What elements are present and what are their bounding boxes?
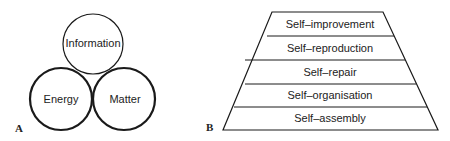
matter-label: Matter: [109, 93, 141, 105]
panel-a-label: A: [15, 122, 23, 134]
information-label: Information: [65, 37, 120, 49]
panel-b-label: B: [206, 121, 214, 133]
layer-label: Self–improvement: [286, 18, 375, 30]
panel-a: Information Energy Matter A: [15, 14, 155, 134]
layer-label: Self–repair: [303, 66, 357, 78]
diagram-canvas: Information Energy Matter A Self–improve…: [0, 0, 450, 141]
layer-label: Self–assembly: [294, 112, 366, 124]
layer-label: Self–reproduction: [287, 42, 373, 54]
energy-label: Energy: [44, 93, 79, 105]
panel-b: Self–improvement Self–reproduction Self–…: [206, 12, 438, 133]
layer-label: Self–organisation: [287, 89, 372, 101]
